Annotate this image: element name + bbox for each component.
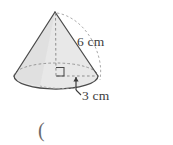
cone-drawing: [0, 0, 173, 145]
radius-label-leader: [76, 90, 81, 95]
stray-parenthesis-text: (: [38, 120, 45, 140]
slant-height-label: 6 cm: [77, 35, 104, 49]
base-radius-label: 3 cm: [82, 89, 109, 103]
cone-diagram: 6 cm 3 cm (: [0, 0, 173, 145]
